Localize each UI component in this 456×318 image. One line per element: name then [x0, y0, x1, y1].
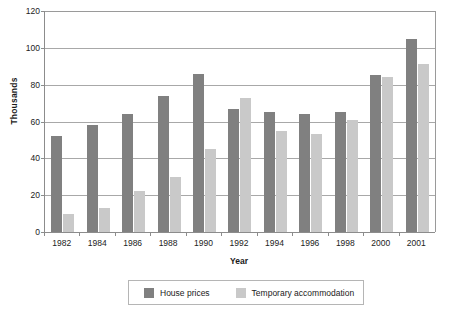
- bar-group: [45, 11, 80, 232]
- bar-group: [258, 11, 293, 232]
- legend-item: House prices: [144, 288, 210, 298]
- x-axis-tick-mark: [328, 232, 329, 236]
- y-axis-tick-label: 120: [26, 6, 40, 16]
- x-axis-tick-cell: [79, 232, 114, 237]
- bar: [406, 39, 417, 232]
- x-axis-tick-mark: [186, 232, 187, 236]
- y-axis-tick-label: 40: [31, 153, 40, 163]
- x-axis-tick-cell: [150, 232, 185, 237]
- x-axis-ticks: [44, 232, 434, 237]
- y-axis-tick-label: 60: [31, 117, 40, 127]
- bar: [335, 112, 346, 232]
- light-gray-swatch: [236, 288, 246, 298]
- bar-group: [329, 11, 364, 232]
- bar: [264, 112, 275, 232]
- bar: [382, 77, 393, 232]
- x-axis-tick-cell: [328, 232, 363, 237]
- bar: [240, 98, 251, 232]
- x-axis-tick-mark: [150, 232, 151, 236]
- y-axis-tick-label: 100: [26, 43, 40, 53]
- y-axis-title: Thousands: [9, 51, 19, 151]
- x-axis-tick-mark: [292, 232, 293, 236]
- bars-layer: [45, 11, 435, 232]
- bar-group: [116, 11, 151, 232]
- x-axis-tick-label: 1986: [115, 238, 150, 252]
- bar-group: [187, 11, 222, 232]
- x-axis-tick-label: 1982: [44, 238, 79, 252]
- x-axis-tick-cell: [186, 232, 221, 237]
- x-axis-tick-mark: [257, 232, 258, 236]
- x-axis-tick-mark: [44, 232, 45, 236]
- bar: [228, 109, 239, 232]
- y-axis-tick-label: 80: [31, 80, 40, 90]
- x-axis-tick-cell: [399, 232, 434, 237]
- bar: [193, 74, 204, 232]
- bar: [63, 214, 74, 232]
- bar: [311, 134, 322, 232]
- x-axis-tick-mark: [399, 232, 400, 236]
- bar-group: [400, 11, 435, 232]
- x-axis-tick-mark: [79, 232, 80, 236]
- x-axis-tick-label: 1992: [221, 238, 256, 252]
- x-axis-tick-cell: [257, 232, 292, 237]
- legend-label: House prices: [160, 288, 210, 298]
- x-axis-tick-mark: [115, 232, 116, 236]
- bar: [99, 208, 110, 232]
- bar-group: [293, 11, 328, 232]
- bar: [347, 120, 358, 232]
- y-axis-tick-label: 20: [31, 190, 40, 200]
- bar: [205, 149, 216, 232]
- x-axis-tick-labels: 1982198419861988199019921994199619982000…: [44, 238, 434, 252]
- dark-gray-swatch: [144, 288, 154, 298]
- bar: [122, 114, 133, 232]
- bar: [87, 125, 98, 232]
- bar: [418, 64, 429, 232]
- bar-group: [222, 11, 257, 232]
- plot-right-border: [435, 11, 436, 232]
- x-axis-tick-label: 1996: [292, 238, 327, 252]
- bar: [299, 114, 310, 232]
- x-axis-title: Year: [44, 256, 434, 266]
- bar-group: [151, 11, 186, 232]
- bar: [134, 191, 145, 232]
- legend-label: Temporary accommodation: [252, 288, 355, 298]
- bar: [51, 136, 62, 232]
- x-axis-tick-label: 1990: [186, 238, 221, 252]
- bar-chart: Thousands 020406080100120 19821984198619…: [0, 0, 456, 318]
- x-axis-tick-cell: [221, 232, 256, 237]
- x-axis-tick-label: 2000: [363, 238, 398, 252]
- plot-area: 020406080100120: [44, 11, 435, 233]
- x-axis-tick-cell: [115, 232, 150, 237]
- y-axis-tick-label: 0: [35, 227, 40, 237]
- x-axis-tick-label: 1984: [79, 238, 114, 252]
- bar-group: [364, 11, 399, 232]
- bar: [276, 131, 287, 232]
- x-axis-tick-cell: [44, 232, 79, 237]
- legend-item: Temporary accommodation: [236, 288, 355, 298]
- x-axis-tick-label: 2001: [399, 238, 434, 252]
- bar: [370, 75, 381, 232]
- x-axis-tick-label: 1994: [257, 238, 292, 252]
- x-axis-tick-mark: [221, 232, 222, 236]
- chart-legend: House pricesTemporary accommodation: [128, 280, 364, 305]
- x-axis-tick-label: 1998: [328, 238, 363, 252]
- bar: [170, 177, 181, 232]
- x-axis-tick-mark: [363, 232, 364, 236]
- x-axis-tick-cell: [363, 232, 398, 237]
- bar-group: [80, 11, 115, 232]
- x-axis-tick-label: 1988: [150, 238, 185, 252]
- x-axis-tick-cell: [292, 232, 327, 237]
- bar: [158, 96, 169, 232]
